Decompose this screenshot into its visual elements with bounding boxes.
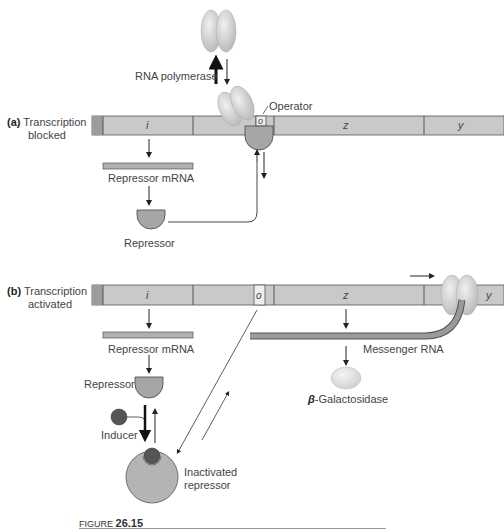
repressor-shape-a xyxy=(137,210,165,229)
panel-b-label: (b) Transcription activated xyxy=(7,285,87,311)
rna-polymerase-free-icon xyxy=(201,10,236,52)
messenger-rna-label: Messenger RNA xyxy=(363,343,444,356)
dna-strand-a xyxy=(92,116,504,135)
caption-divider xyxy=(79,528,386,529)
inactivated-line1: Inactivated xyxy=(184,466,237,478)
inducer-icon xyxy=(111,409,127,425)
gene-z-label-a: z xyxy=(343,119,349,132)
inactivated-repressor-label: Inactivated repressor xyxy=(184,466,237,492)
panel-b-line2: activated xyxy=(7,298,72,310)
panel-a-label: (a) Transcription blocked xyxy=(7,116,86,142)
repressor-mrna-bar-a xyxy=(103,163,193,169)
beta-symbol: β xyxy=(308,393,315,405)
beta-galactosidase-label: β-Galactosidase xyxy=(308,393,388,406)
panel-b-line1: Transcription xyxy=(24,285,87,297)
repressor-mrna-label-b: Repressor mRNA xyxy=(108,343,194,356)
gene-z-label-b: z xyxy=(343,289,349,302)
repressor-label-a: Repressor xyxy=(124,237,175,250)
gene-y-label-a: y xyxy=(458,119,464,132)
panel-a-letter: (a) xyxy=(7,116,20,128)
panel-b-letter: (b) xyxy=(7,285,21,297)
gene-y-label-b: y xyxy=(486,289,492,302)
panel-a-line1: Transcription xyxy=(23,116,86,128)
beta-gal-text: -Galactosidase xyxy=(315,393,388,405)
bound-repressor-shape xyxy=(245,126,273,150)
panel-a-line2: blocked xyxy=(7,129,66,141)
repressor-path-line xyxy=(168,162,257,222)
gene-i-label-b: i xyxy=(146,289,148,302)
gene-o-label-a: o xyxy=(258,115,263,128)
repressor-mrna-bar-b xyxy=(103,332,193,338)
inactivated-line2: repressor xyxy=(184,479,230,491)
repressor-shape-b xyxy=(135,377,163,398)
rna-polymerase-label: RNA polymerase xyxy=(135,70,218,83)
operator-label: Operator xyxy=(269,100,312,113)
gene-o-label-b: o xyxy=(256,289,262,302)
beta-galactosidase-icon xyxy=(331,367,361,389)
gene-i-label-a: i xyxy=(146,119,148,132)
inducer-label: Inducer xyxy=(101,429,138,442)
repressor-label-b: Repressor xyxy=(84,378,135,391)
repressor-mrna-label-a: Repressor mRNA xyxy=(108,172,194,185)
diagram-canvas xyxy=(0,0,504,532)
